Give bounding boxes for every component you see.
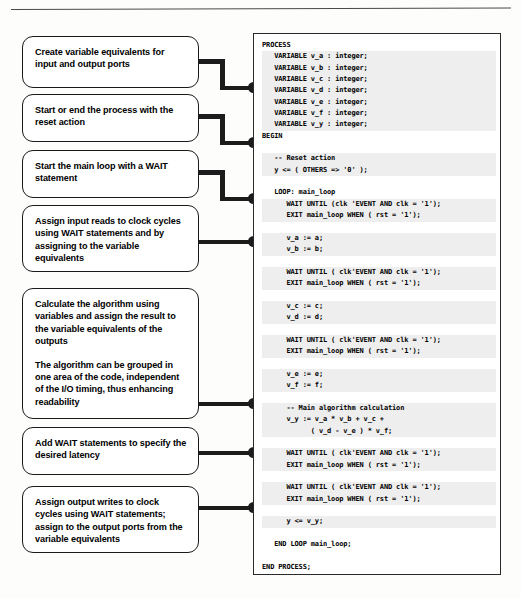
code-line: y <= ( OTHERS => '0' );: [262, 165, 496, 176]
callout-assign-input-reads: Assign input reads to clock cycles using…: [22, 205, 199, 272]
callout-assign-output-writes: Assign output writes to clock cycles usi…: [22, 486, 199, 553]
code-line: [262, 324, 496, 335]
code-line: v_f := f;: [262, 380, 496, 391]
code-line: EXIT main_loop WHEN ( rst = '1');: [262, 346, 496, 357]
connector-segment-horizontal: [199, 402, 252, 407]
code-line: WAIT UNTIL ( clk'EVENT AND clk = '1');: [262, 448, 496, 459]
callout-text: Assign input reads to clock cycles using…: [35, 215, 187, 265]
code-line: VARIABLE v_y : integer;: [262, 119, 496, 130]
code-line: EXIT main_loop WHEN ( rst = '1');: [262, 210, 496, 221]
code-line: WAIT UNTIL ( clk'EVENT AND clk = '1');: [262, 335, 496, 346]
callout-text: Start the main loop with a WAIT statemen…: [35, 160, 187, 185]
code-line: [262, 142, 496, 153]
code-line: VARIABLE v_d : integer;: [262, 85, 496, 96]
connector-segment-vertical: [220, 59, 225, 88]
code-line: [262, 290, 496, 301]
callout-text: Create variable equivalents for input an…: [35, 46, 187, 71]
code-line: BEGIN: [262, 131, 496, 142]
code-line: [262, 505, 496, 516]
code-line: [262, 358, 496, 369]
callout-text-secondary: The algorithm can be grouped in one area…: [35, 359, 187, 409]
connector-segment-horizontal: [199, 240, 252, 245]
callout-create-variable-equivalents: Create variable equivalents for input an…: [22, 36, 199, 88]
code-line: v_a := a;: [262, 233, 496, 244]
callout-text: Add WAIT statements to specify the desir…: [35, 437, 187, 462]
code-line: EXIT main_loop WHEN ( rst = '1');: [262, 494, 496, 505]
code-line: PROCESS: [262, 40, 496, 51]
code-listing: PROCESS VARIABLE v_a : integer; VARIABLE…: [262, 40, 496, 573]
code-line: v_d := d;: [262, 312, 496, 323]
connector-segment-horizontal: [199, 451, 252, 456]
code-line: WAIT UNTIL (clk 'EVENT AND clk = '1');: [262, 199, 496, 210]
code-line: v_c := c;: [262, 301, 496, 312]
code-line: VARIABLE v_b : integer;: [262, 63, 496, 74]
code-line: v_e := e;: [262, 369, 496, 380]
callout-add-wait-statements: Add WAIT statements to specify the desir…: [22, 427, 199, 475]
code-line: [262, 528, 496, 539]
code-line: y <= v_y;: [262, 516, 496, 527]
code-line: VARIABLE v_a : integer;: [262, 51, 496, 62]
code-line: v_y := v_a * v_b + v_c +: [262, 414, 496, 425]
callout-calculate-algorithm: Calculate the algorithm using variables …: [22, 288, 199, 419]
code-line: EXIT main_loop WHEN ( rst = '1');: [262, 460, 496, 471]
code-line: v_b := b;: [262, 244, 496, 255]
code-line: WAIT UNTIL ( clk'EVENT AND clk = '1');: [262, 482, 496, 493]
code-line: [262, 437, 496, 448]
connector-segment-horizontal: [199, 506, 252, 511]
code-line: END LOOP main_loop;: [262, 539, 496, 550]
diagram-page: Create variable equivalents for input an…: [0, 0, 521, 598]
code-line: [262, 222, 496, 233]
callout-start-or-end-process: Start or end the process with the reset …: [22, 94, 199, 142]
code-line: [262, 256, 496, 267]
connector-segment-vertical: [220, 114, 225, 143]
callout-text-primary: Calculate the algorithm using variables …: [35, 298, 187, 348]
code-line: VARIABLE v_c : integer;: [262, 74, 496, 85]
top-horizontal-rule: [11, 7, 511, 10]
code-line: LOOP: main_loop: [262, 187, 496, 198]
code-line: VARIABLE v_e : integer;: [262, 97, 496, 108]
code-panel: PROCESS VARIABLE v_a : integer; VARIABLE…: [253, 33, 501, 575]
code-line: [262, 471, 496, 482]
connector-segment-vertical: [220, 170, 225, 199]
code-line: [262, 392, 496, 403]
code-line: ( v_d - v_e ) * v_f;: [262, 426, 496, 437]
code-line: END PROCESS;: [262, 562, 496, 573]
code-line: -- Reset action: [262, 153, 496, 164]
callout-text: Start or end the process with the reset …: [35, 104, 187, 129]
code-line: EXIT main_loop WHEN ( rst = '1');: [262, 278, 496, 289]
callout-text: Assign output writes to clock cycles usi…: [35, 496, 187, 546]
code-line: [262, 176, 496, 187]
callout-start-main-loop: Start the main loop with a WAIT statemen…: [22, 150, 199, 198]
code-line: VARIABLE v_f : integer;: [262, 108, 496, 119]
code-line: WAIT UNTIL ( clk'EVENT AND clk = '1');: [262, 267, 496, 278]
code-line: [262, 550, 496, 561]
code-line: -- Main algorithm calculation: [262, 403, 496, 414]
